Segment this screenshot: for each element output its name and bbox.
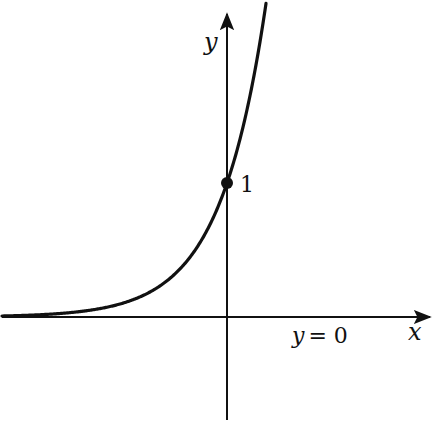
exponential-graph: y 1 x y= 0: [0, 0, 441, 422]
asymptote-label: y= 0: [291, 323, 348, 348]
y-intercept-label: 1: [240, 172, 254, 197]
y-intercept-point: [221, 177, 233, 189]
y-axis-label: y: [203, 28, 218, 56]
x-axis-label: x: [408, 318, 422, 346]
